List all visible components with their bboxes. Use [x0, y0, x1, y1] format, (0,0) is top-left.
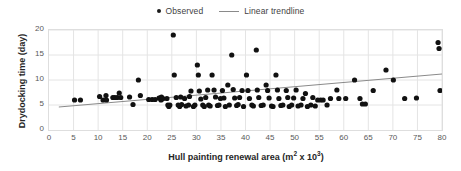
data-point	[270, 104, 275, 109]
data-point	[280, 102, 285, 107]
data-point	[208, 103, 213, 108]
x-tick-label: 65	[358, 134, 378, 142]
data-point	[196, 72, 201, 77]
data-point	[293, 87, 298, 92]
x-tick-label: 15	[113, 134, 133, 142]
x-axis-title-mid: x 10	[297, 152, 317, 162]
data-point	[371, 88, 376, 93]
x-tick-label: 25	[162, 134, 182, 142]
data-point	[239, 88, 244, 93]
data-point	[436, 46, 441, 51]
data-point	[251, 103, 256, 108]
x-tick-label: 10	[88, 134, 108, 142]
data-point	[336, 96, 341, 101]
data-point	[188, 88, 193, 93]
data-point	[192, 102, 197, 107]
data-point	[237, 95, 242, 100]
data-point	[414, 95, 419, 100]
data-point	[383, 67, 388, 72]
data-point	[216, 102, 221, 107]
data-point	[225, 82, 230, 87]
data-point	[402, 96, 407, 101]
x-axis-title: Hull painting renewal area (m2 x 103)	[48, 150, 444, 162]
data-point	[103, 93, 108, 98]
data-point	[266, 95, 271, 100]
x-tick-label: 20	[137, 134, 157, 142]
x-axis-title-main: Hull painting renewal area (m	[168, 152, 293, 162]
x-tick-label: 60	[334, 134, 354, 142]
data-point	[435, 40, 440, 45]
data-point	[130, 102, 135, 107]
chart-legend: Observed Linear trendline	[0, 2, 461, 20]
x-tick-label: 70	[383, 134, 403, 142]
data-point	[313, 103, 318, 108]
x-tick-label: 0	[39, 134, 59, 142]
data-point	[308, 102, 313, 107]
data-point	[220, 88, 225, 93]
data-point	[167, 102, 172, 107]
x-tick-label: 35	[211, 134, 231, 142]
data-point	[227, 102, 232, 107]
legend-entry-observed: Observed	[157, 6, 204, 16]
legend-label-observed: Observed	[166, 6, 204, 16]
x-tick-label: 75	[407, 134, 427, 142]
plot-area	[48, 29, 443, 131]
data-point	[229, 52, 234, 57]
data-point	[236, 102, 241, 107]
data-point	[357, 96, 362, 101]
data-point	[303, 91, 308, 96]
data-point	[209, 72, 214, 77]
chart-figure: Observed Linear trendline Drydocking tim…	[0, 0, 461, 171]
data-point	[298, 102, 303, 107]
y-tick-label: 5	[30, 100, 44, 108]
data-point	[104, 97, 109, 102]
x-tick-label: 55	[309, 134, 329, 142]
data-point	[164, 96, 169, 101]
data-point	[203, 95, 208, 100]
data-point	[118, 95, 123, 100]
legend-entry-trendline: Linear trendline	[219, 6, 304, 16]
data-point	[273, 72, 278, 77]
data-point	[276, 96, 281, 101]
data-point	[275, 87, 280, 92]
scatter-plot-canvas	[49, 30, 442, 130]
data-point	[352, 77, 357, 82]
data-point	[172, 72, 177, 77]
data-point	[391, 77, 396, 82]
data-point	[221, 95, 226, 100]
data-point	[334, 87, 339, 92]
x-tick-label: 45	[260, 134, 280, 142]
data-point	[171, 32, 176, 37]
data-point	[138, 93, 143, 98]
data-point	[328, 96, 333, 101]
data-point	[324, 102, 329, 107]
data-point	[213, 94, 218, 99]
data-point	[244, 72, 249, 77]
data-point	[363, 101, 368, 106]
data-point	[343, 96, 348, 101]
data-point	[174, 95, 179, 100]
y-tick-label: 10	[30, 75, 44, 83]
data-point	[300, 96, 305, 101]
data-point	[211, 87, 216, 92]
data-point	[197, 88, 202, 93]
data-point	[198, 96, 203, 101]
line-marker-icon	[219, 11, 239, 12]
data-point	[255, 87, 260, 92]
data-point	[284, 88, 289, 93]
data-point	[285, 95, 290, 100]
data-point	[136, 77, 141, 82]
x-axis-tick-labels: 05101520253035404550556065707580	[0, 134, 461, 146]
observed-data-points	[72, 32, 442, 109]
legend-label-trendline: Linear trendline	[244, 6, 304, 16]
data-point	[205, 87, 210, 92]
data-point	[321, 97, 326, 102]
gridlines	[49, 30, 442, 130]
data-point	[291, 95, 296, 100]
data-point	[256, 95, 261, 100]
data-point	[232, 95, 237, 100]
y-tick-label: 15	[30, 50, 44, 58]
x-tick-label: 80	[432, 134, 452, 142]
data-point	[264, 82, 269, 87]
data-point	[247, 96, 252, 101]
